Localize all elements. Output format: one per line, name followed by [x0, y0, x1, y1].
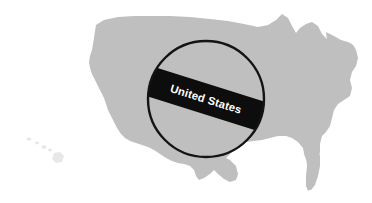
us-map-graphic: United States [0, 0, 372, 203]
map-figure: United States [0, 0, 372, 203]
hawaii-islands [26, 137, 64, 163]
